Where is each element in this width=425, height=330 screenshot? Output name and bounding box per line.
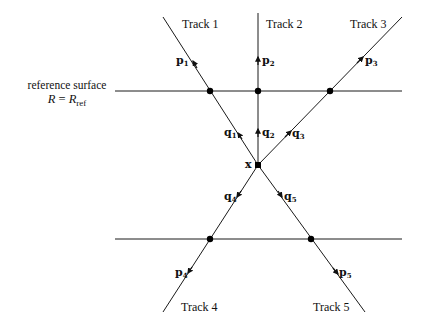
q1-label: q1 [224, 127, 237, 139]
q4-label: q4 [224, 191, 237, 203]
p3-arrow-icon [357, 57, 363, 63]
track-2-label: Track 2 [266, 18, 303, 30]
track-3-upper-intersection-dot [327, 88, 333, 94]
q5-label: q5 [284, 191, 297, 203]
p1-label: p1 [176, 55, 189, 67]
p3-label: p3 [365, 55, 378, 67]
reference-surface-label: reference surface R = Rref [18, 78, 116, 110]
track-5-lower-intersection-dot [308, 236, 314, 242]
q1-arrow-icon [238, 133, 242, 139]
track-1-label: Track 1 [182, 18, 219, 30]
equation-lhs: R [48, 92, 56, 106]
p4-label: p4 [175, 267, 188, 279]
vertex-label: x [245, 159, 252, 170]
q3-arrow-icon [285, 131, 291, 137]
track-4-label: Track 4 [181, 301, 218, 313]
track-2-upper-intersection-dot [255, 88, 261, 94]
track-5-label: Track 5 [313, 301, 350, 313]
q2-label: q2 [262, 127, 275, 139]
p5-label: p5 [339, 267, 352, 279]
p4-arrow-icon [188, 267, 192, 273]
track-4-lower-intersection-dot [207, 236, 213, 242]
reference-surface-equation: R = Rref [18, 92, 116, 109]
reference-surface-text: reference surface [18, 78, 116, 92]
equation-rhs-subscript: ref [76, 98, 86, 108]
q3-label: q3 [292, 128, 305, 140]
track-3-label: Track 3 [350, 18, 387, 30]
q4-arrow-icon [237, 191, 241, 197]
track-diagram [0, 0, 425, 330]
track-1-upper-intersection-dot [207, 88, 213, 94]
equation-sign: = [58, 92, 65, 106]
vertex-marker [255, 162, 261, 168]
p5-arrow-icon [333, 268, 338, 274]
p2-label: p2 [262, 55, 275, 67]
